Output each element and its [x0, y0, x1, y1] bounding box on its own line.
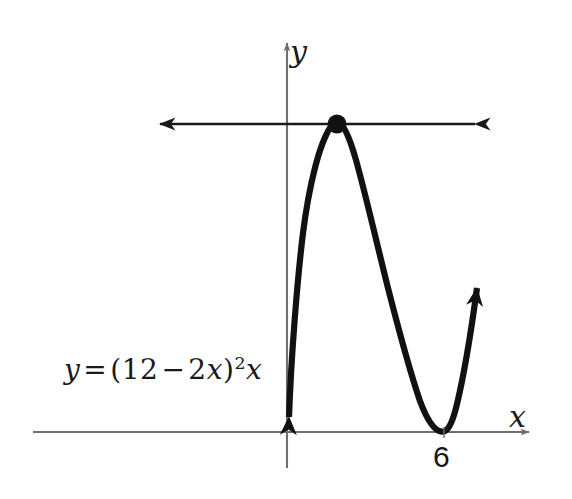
- equation-trailing-variable: x: [246, 353, 262, 386]
- equation-first-term: 12: [122, 353, 159, 386]
- y-axis-label: y: [290, 34, 307, 69]
- plot-svg: [0, 0, 572, 499]
- equation-coefficient: 2: [188, 353, 206, 386]
- figure-canvas: y x 6 y=(12−2x)2x: [0, 0, 572, 499]
- x-axis-label: x: [509, 399, 526, 434]
- equation-variable: x: [207, 353, 223, 386]
- equation-lhs: y: [64, 353, 80, 386]
- x-tick-label-6: 6: [433, 440, 450, 474]
- local-maximum-dot: [328, 115, 347, 134]
- cubic-curve: [289, 123, 477, 432]
- equation-equals: =: [80, 353, 110, 386]
- equation-close-paren: ): [223, 353, 234, 386]
- equation-minus: −: [158, 353, 188, 386]
- equation-exponent: 2: [234, 353, 246, 373]
- equation-open-paren: (: [110, 353, 121, 386]
- equation-annotation: y=(12−2x)2x: [64, 353, 262, 386]
